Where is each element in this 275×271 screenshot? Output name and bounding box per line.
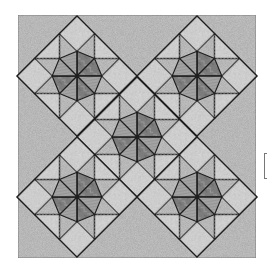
side-bracket-mark — [264, 153, 267, 179]
quilt-illustration — [0, 0, 275, 271]
